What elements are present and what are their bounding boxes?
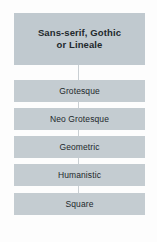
child-node-label-geometric: Geometric bbox=[55, 142, 103, 153]
child-node-grotesque: Grotesque bbox=[14, 80, 145, 102]
child-node-geometric: Geometric bbox=[14, 136, 145, 158]
child-node-label-grotesque: Grotesque bbox=[55, 86, 104, 97]
typeface-classification-diagram: Sans-serif, Gothic or Lineale Grotesque … bbox=[0, 0, 157, 242]
child-node-humanistic: Humanistic bbox=[14, 164, 145, 186]
root-node-sans-serif: Sans-serif, Gothic or Lineale bbox=[14, 13, 145, 65]
child-node-label-neo-grotesque: Neo Grotesque bbox=[46, 114, 113, 125]
child-node-label-square: Square bbox=[61, 199, 97, 210]
root-node-label: Sans-serif, Gothic or Lineale bbox=[34, 27, 125, 51]
child-node-square: Square bbox=[14, 193, 145, 215]
child-node-neo-grotesque: Neo Grotesque bbox=[14, 108, 145, 130]
child-node-label-humanistic: Humanistic bbox=[54, 170, 105, 181]
